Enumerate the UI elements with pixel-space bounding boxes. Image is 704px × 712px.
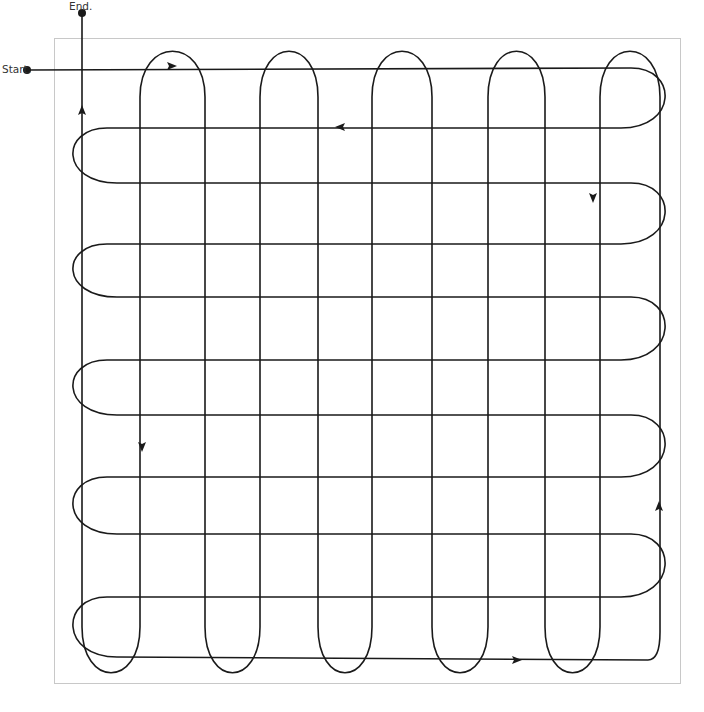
direction-arrows [78,62,663,664]
arrow-down-right-column-icon [589,193,597,203]
end-label: End. [69,0,92,12]
arrow-left-second-row-icon [335,123,345,131]
serpentine-path-diagram [0,0,704,712]
horizontal-serpentine-path [27,68,665,660]
vertical-serpentine-path [82,13,660,673]
start-label: Start. [2,63,31,75]
arrow-up-far-right-column-icon [655,501,663,511]
